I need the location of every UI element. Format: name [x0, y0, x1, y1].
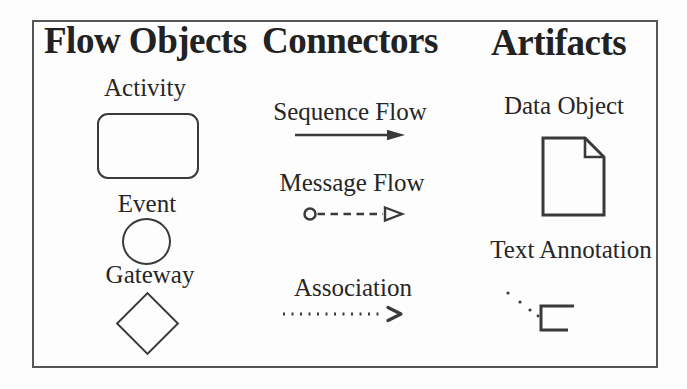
gateway-label: Gateway — [90, 262, 210, 287]
association-label: Association — [273, 275, 433, 300]
column-heading-connectors: Connectors — [262, 22, 438, 59]
sequence-flow-arrow-icon — [292, 127, 408, 143]
column-heading-artifacts: Artifacts — [491, 24, 626, 61]
column-heading-flow-objects: Flow Objects — [44, 22, 247, 59]
data-object-label: Data Object — [484, 93, 644, 118]
sequence-flow-label: Sequence Flow — [270, 99, 430, 124]
activity-label: Activity — [85, 75, 205, 100]
data-object-icon — [540, 135, 608, 219]
message-flow-label: Message Flow — [272, 170, 432, 195]
message-flow-arrow-icon — [300, 203, 408, 225]
event-label: Event — [87, 191, 207, 216]
bpmn-legend-figure: Flow Objects Connectors Artifacts Activi… — [0, 0, 687, 389]
association-arrow-icon — [278, 304, 406, 324]
text-annotation-label: Text Annotation — [481, 237, 661, 262]
text-annotation-icon — [498, 288, 582, 340]
event-circle-icon — [122, 218, 171, 265]
activity-rounded-rectangle-icon — [97, 113, 199, 179]
